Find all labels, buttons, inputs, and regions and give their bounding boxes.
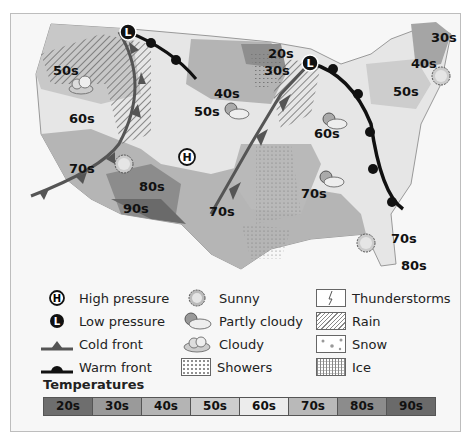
legend-label: Low pressure (79, 314, 165, 329)
svg-text:H: H (182, 151, 191, 164)
map-temperature-label: 70s (69, 161, 95, 176)
legend-high-pressure: H High pressure (41, 288, 169, 308)
partly-cloudy-icon (181, 312, 213, 330)
high-pressure-marker: H (179, 149, 195, 165)
temp-scale-40s: 40s (142, 398, 191, 415)
temp-scale-60s: 60s (240, 398, 289, 415)
legend-low-pressure: L Low pressure (41, 311, 165, 331)
temp-scale-20s: 20s (44, 398, 93, 415)
low-pressure-marker: L (302, 55, 318, 71)
map-temperature-label: 70s (301, 186, 327, 201)
cloudy-icon (181, 335, 213, 353)
svg-text:L: L (124, 26, 131, 39)
sunny-icon (181, 289, 213, 307)
temp-scale-50s: 50s (191, 398, 240, 415)
map-temperature-label: 80s (139, 179, 165, 194)
temp-scale-30s: 30s (93, 398, 142, 415)
thunderstorm-swatch-icon (316, 289, 346, 307)
legend-label: Warm front (79, 360, 152, 375)
map-temperature-label: 50s (53, 63, 79, 78)
warm-front-icon (41, 358, 73, 376)
map-temperature-label: 50s (393, 84, 419, 99)
svg-text:L: L (306, 57, 313, 70)
svg-text:H: H (53, 293, 61, 304)
legend-cloudy: Cloudy (181, 334, 264, 354)
map-temperature-label: 40s (411, 56, 437, 71)
snow-swatch-icon (316, 335, 346, 353)
legend: H High pressure L Low pressure Cold fron… (11, 282, 460, 432)
map-temperature-label: 20s (268, 46, 294, 61)
ice-swatch-icon (316, 358, 346, 376)
legend-label: Rain (352, 314, 381, 329)
map-temperature-label: 50s (194, 104, 220, 119)
legend-label: Cold front (79, 337, 143, 352)
legend-label: Cloudy (219, 337, 264, 352)
legend-thunderstorms: Thunderstorms (316, 288, 451, 308)
showers-swatch-icon (181, 358, 211, 376)
rain-swatch-icon (316, 312, 346, 330)
map-temperature-label: 80s (401, 258, 427, 273)
low-pressure-icon: L (41, 312, 73, 330)
map-temperature-label: 70s (209, 204, 235, 219)
legend-label: Thunderstorms (352, 291, 451, 306)
low-pressure-marker: L (120, 24, 136, 40)
weather-map-figure: L L H (10, 13, 461, 432)
legend-label: Sunny (219, 291, 260, 306)
legend-snow: Snow (316, 334, 387, 354)
legend-label: High pressure (79, 291, 169, 306)
legend-rain: Rain (316, 311, 381, 331)
high-pressure-icon: H (41, 289, 73, 307)
map-temperature-label: 40s (214, 86, 240, 101)
legend-sunny: Sunny (181, 288, 260, 308)
legend-cold-front: Cold front (41, 334, 143, 354)
cold-front-icon (41, 335, 73, 353)
legend-showers: Showers (181, 357, 272, 377)
map-temperature-label: 60s (69, 111, 95, 126)
map-temperature-label: 30s (264, 63, 290, 78)
legend-label: Partly cloudy (219, 314, 303, 329)
temp-scale-90s: 90s (387, 398, 435, 415)
legend-warm-front: Warm front (41, 357, 152, 377)
legend-label: Showers (217, 360, 272, 375)
map-temperature-label: 60s (314, 126, 340, 141)
us-weather-map: L L H (11, 14, 460, 274)
temp-scale-70s: 70s (289, 398, 338, 415)
sunny-icon (357, 234, 375, 252)
map-temperature-label: 90s (123, 201, 149, 216)
temperatures-title: Temperatures (43, 377, 144, 392)
map-temperature-label: 70s (391, 231, 417, 246)
sunny-icon (115, 155, 133, 173)
temp-scale-80s: 80s (338, 398, 387, 415)
legend-label: Ice (352, 360, 371, 375)
legend-label: Snow (352, 337, 387, 352)
map-temperature-label: 30s (431, 30, 457, 45)
legend-partly-cloudy: Partly cloudy (181, 311, 303, 331)
temperature-scale: 20s 30s 40s 50s 60s 70s 80s 90s (43, 397, 436, 416)
svg-text:L: L (54, 316, 61, 327)
legend-ice: Ice (316, 357, 371, 377)
